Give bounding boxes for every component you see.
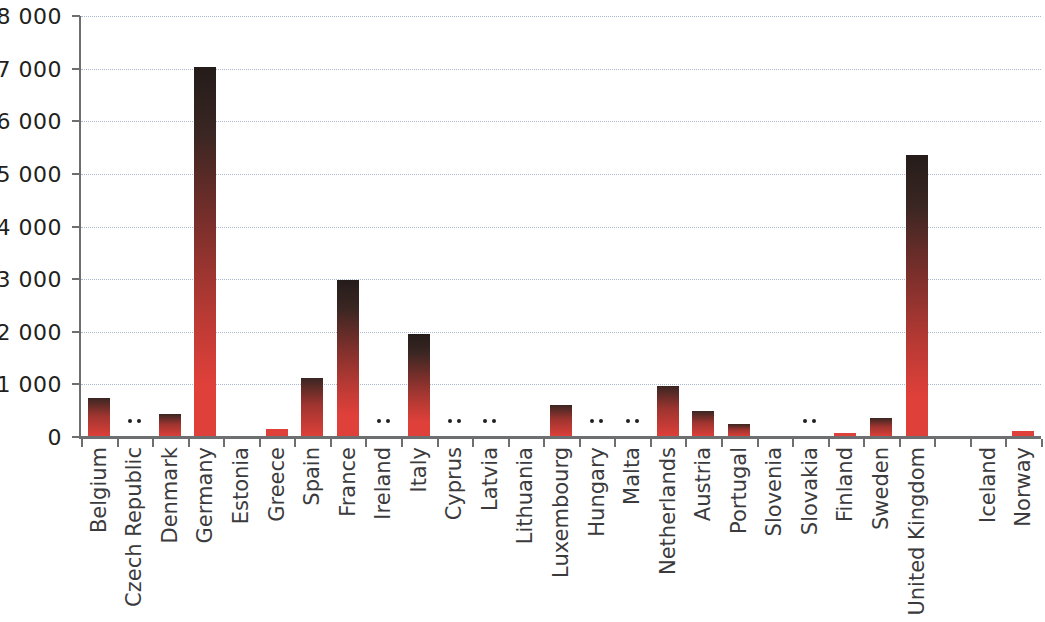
not-available-marker bbox=[437, 418, 473, 423]
x-label-slot: Sweden bbox=[863, 447, 899, 622]
y-tick-label: 7 000 bbox=[0, 56, 62, 81]
x-tick-mark bbox=[579, 439, 581, 447]
x-label-slot: Slovenia bbox=[757, 447, 793, 622]
x-label-slot: France bbox=[330, 447, 366, 622]
x-label-slot: Germany bbox=[188, 447, 224, 622]
not-available-marker bbox=[792, 418, 828, 423]
x-tick-mark bbox=[650, 439, 652, 447]
x-label-slot: Portugal bbox=[721, 447, 757, 622]
x-tick-mark bbox=[1041, 439, 1043, 447]
x-tick-mark bbox=[828, 439, 830, 447]
x-tick-label: Italy bbox=[408, 447, 429, 493]
x-tick-mark bbox=[543, 439, 545, 447]
y-axis: 01 0002 0003 0004 0005 0006 0007 0008 00… bbox=[0, 0, 72, 622]
x-axis: BelgiumCzech RepublicDenmarkGermanyEston… bbox=[81, 447, 1041, 622]
x-tick-label: Slovenia bbox=[764, 447, 785, 536]
x-tick-mark bbox=[863, 439, 865, 447]
bar bbox=[337, 280, 359, 437]
y-tick-label: 8 000 bbox=[0, 4, 62, 29]
x-label-slot: Denmark bbox=[152, 447, 188, 622]
x-tick-label: Czech Republic bbox=[124, 447, 145, 607]
bar bbox=[194, 67, 216, 437]
x-label-slot: Norway bbox=[1005, 447, 1041, 622]
not-available-marker bbox=[117, 418, 153, 423]
plot-area bbox=[81, 16, 1041, 437]
y-tick-mark bbox=[72, 331, 80, 333]
x-tick-mark bbox=[330, 439, 332, 447]
y-tick-mark bbox=[72, 278, 80, 280]
y-tick-label: 2 000 bbox=[0, 319, 62, 344]
x-tick-mark bbox=[365, 439, 367, 447]
y-tick-mark bbox=[72, 15, 80, 17]
x-tick-label: Luxembourg bbox=[550, 447, 571, 578]
x-label-slot: Hungary bbox=[579, 447, 615, 622]
x-tick-label: Lithuania bbox=[515, 447, 536, 544]
x-tick-mark bbox=[223, 439, 225, 447]
x-label-slot: Malta bbox=[614, 447, 650, 622]
x-label-slot: Cyprus bbox=[437, 447, 473, 622]
x-tick-label: Norway bbox=[1013, 447, 1034, 527]
x-tick-label: United Kingdom bbox=[906, 447, 927, 616]
x-tick-label: Ireland bbox=[373, 447, 394, 520]
x-tick-label: Finland bbox=[835, 447, 856, 522]
x-tick-mark bbox=[614, 439, 616, 447]
x-tick-mark bbox=[970, 439, 972, 447]
x-tick-mark bbox=[472, 439, 474, 447]
x-tick-mark bbox=[934, 439, 936, 447]
x-tick-mark bbox=[117, 439, 119, 447]
x-label-slot: United Kingdom bbox=[899, 447, 935, 622]
x-tick-label: France bbox=[337, 447, 358, 517]
gridline bbox=[81, 69, 1041, 70]
bar bbox=[550, 405, 572, 437]
gridline bbox=[81, 279, 1041, 280]
bar bbox=[408, 334, 430, 437]
gridline bbox=[81, 227, 1041, 228]
x-label-slot: Ireland bbox=[365, 447, 401, 622]
x-tick-mark bbox=[685, 439, 687, 447]
x-tick-mark bbox=[508, 439, 510, 447]
x-tick-label: Estonia bbox=[230, 447, 251, 524]
x-label-slot: Czech Republic bbox=[117, 447, 153, 622]
x-tick-label: Hungary bbox=[586, 447, 607, 537]
not-available-marker bbox=[579, 418, 615, 423]
x-tick-mark bbox=[757, 439, 759, 447]
bar bbox=[870, 418, 892, 437]
x-label-slot: Italy bbox=[401, 447, 437, 622]
x-label-slot: Austria bbox=[685, 447, 721, 622]
y-tick-label: 3 000 bbox=[0, 267, 62, 292]
x-tick-label: Belgium bbox=[88, 447, 109, 533]
x-tick-mark bbox=[401, 439, 403, 447]
bar-chart: 01 0002 0003 0004 0005 0006 0007 0008 00… bbox=[0, 0, 1045, 622]
y-tick-mark bbox=[72, 120, 80, 122]
x-tick-label: Slovakia bbox=[799, 447, 820, 535]
not-available-marker bbox=[472, 418, 508, 423]
x-label-slot: Spain bbox=[294, 447, 330, 622]
bar bbox=[88, 398, 110, 437]
x-tick-mark bbox=[1005, 439, 1007, 447]
x-label-slot: Finland bbox=[828, 447, 864, 622]
x-label-slot: Lithuania bbox=[508, 447, 544, 622]
y-tick-label: 6 000 bbox=[0, 109, 62, 134]
gridline bbox=[81, 332, 1041, 333]
gridline bbox=[81, 16, 1041, 17]
x-tick-label: Greece bbox=[266, 447, 287, 522]
y-tick-mark bbox=[72, 226, 80, 228]
not-available-marker bbox=[614, 418, 650, 423]
bar bbox=[657, 386, 679, 437]
x-tick-mark bbox=[81, 439, 83, 447]
x-label-slot: Luxembourg bbox=[543, 447, 579, 622]
bar bbox=[301, 378, 323, 437]
x-label-slot: Belgium bbox=[81, 447, 117, 622]
bar bbox=[692, 411, 714, 437]
x-tick-mark bbox=[259, 439, 261, 447]
y-tick-label: 5 000 bbox=[0, 161, 62, 186]
x-label-slot: Estonia bbox=[223, 447, 259, 622]
x-label-slot: Netherlands bbox=[650, 447, 686, 622]
bar bbox=[159, 414, 181, 437]
x-tick-label: Austria bbox=[693, 447, 714, 521]
x-tick-label: Germany bbox=[195, 447, 216, 544]
x-tick-mark bbox=[188, 439, 190, 447]
x-tick-label: Portugal bbox=[728, 447, 749, 534]
x-tick-label: Malta bbox=[622, 447, 643, 505]
y-tick-mark bbox=[72, 68, 80, 70]
